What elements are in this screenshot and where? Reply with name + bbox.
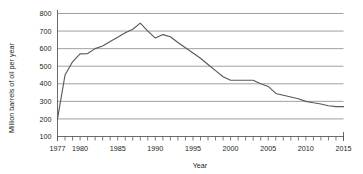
line-chart: Million barrels of oil per year 10020030… bbox=[0, 0, 363, 174]
y-tick-label: 400 bbox=[40, 79, 52, 88]
y-tick-labels-group: 100200300400500600700800 bbox=[40, 9, 52, 141]
y-tick-label: 600 bbox=[40, 44, 52, 53]
y-tick-label: 300 bbox=[40, 97, 52, 106]
data-line-oil-production bbox=[58, 23, 344, 119]
y-tick-label: 800 bbox=[40, 9, 52, 18]
x-tick-label: 2005 bbox=[260, 144, 276, 153]
gridlines-group bbox=[58, 14, 344, 119]
y-tick-label: 200 bbox=[40, 115, 52, 124]
x-tick-labels-group: 197719801985199019952000200520102015 bbox=[50, 144, 352, 153]
x-tick-label: 1985 bbox=[110, 144, 126, 153]
y-axis-title-group: Million barrels of oil per year bbox=[7, 43, 16, 133]
y-tick-label: 700 bbox=[40, 27, 52, 36]
y-tick-label: 100 bbox=[40, 132, 52, 141]
x-tick-label: 1980 bbox=[72, 144, 88, 153]
x-tick-label: 1977 bbox=[50, 144, 66, 153]
y-tick-label: 500 bbox=[40, 62, 52, 71]
x-axis-title: Year bbox=[193, 161, 208, 170]
x-tick-label: 2015 bbox=[336, 144, 352, 153]
x-tick-label: 2010 bbox=[298, 144, 314, 153]
x-tick-marks-group bbox=[58, 137, 344, 141]
x-tick-label: 1990 bbox=[147, 144, 163, 153]
x-tick-label: 2000 bbox=[223, 144, 239, 153]
x-tick-label: 1995 bbox=[185, 144, 201, 153]
y-axis-title: Million barrels of oil per year bbox=[7, 43, 16, 133]
chart-canvas: Million barrels of oil per year 10020030… bbox=[0, 0, 363, 174]
